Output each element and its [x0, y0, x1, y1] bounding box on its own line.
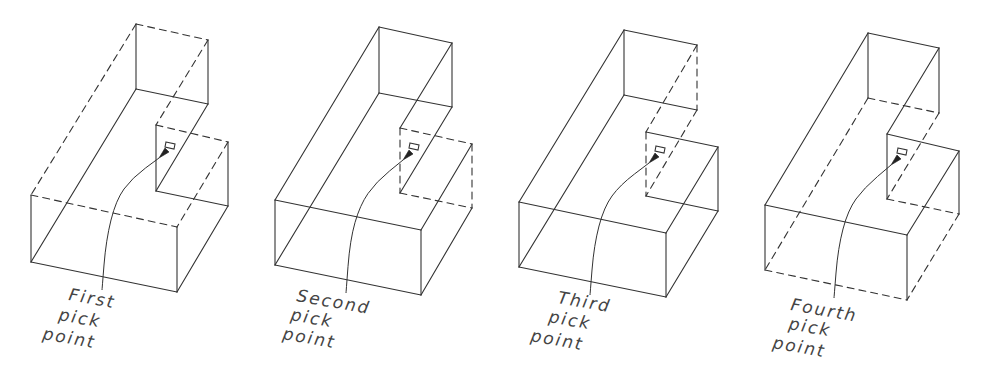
edge-rvb-nbl	[887, 113, 939, 199]
leader-line	[590, 163, 649, 295]
edge-ntr-ftr	[907, 151, 959, 235]
edge-ntl-ntr	[400, 128, 472, 144]
edge-btl-ftl	[519, 30, 624, 202]
pickbox-icon	[655, 146, 665, 153]
edge-ntr-ftr	[421, 144, 472, 230]
edge-ibb-fbl	[31, 89, 136, 262]
edge-nbl-nbr	[646, 196, 718, 211]
panel-fourth: Fourth pick point	[765, 33, 959, 361]
edge-ntl-ntr	[156, 125, 228, 142]
edge-tr-ntl	[156, 40, 208, 125]
leader-line	[834, 165, 891, 298]
edge-ftl-ftr	[765, 205, 907, 235]
pickbox-icon	[165, 142, 175, 149]
pick-point-diagram: First pick point Second pick point Third…	[0, 0, 985, 376]
edge-btl-tr	[136, 24, 208, 40]
edge-btl-ftl	[31, 24, 136, 195]
pickbox-icon	[409, 143, 419, 150]
edge-nbl-nbr	[156, 191, 228, 206]
panel-second: Second pick point	[275, 27, 472, 352]
edge-tr-ntl	[887, 48, 939, 134]
edge-nbr-fbr	[421, 208, 472, 295]
edge-ibb-rvb	[868, 98, 939, 113]
leader-line	[102, 158, 159, 290]
block-edges	[31, 24, 228, 292]
edge-rvb-nbl	[156, 104, 208, 191]
edge-tr-ntl	[400, 43, 452, 128]
edge-btl-tr	[868, 33, 939, 48]
panel-third: Third pick point	[519, 30, 718, 354]
edge-rvb-nbl	[400, 107, 452, 193]
edge-nbl-nbr	[887, 199, 959, 214]
pickbox-icon	[897, 148, 907, 155]
edge-ibb-fbl	[765, 98, 868, 270]
arrowhead-icon	[403, 150, 413, 160]
edge-ntr-ftr	[666, 147, 718, 233]
edge-nbr-fbr	[666, 211, 718, 297]
block-edges	[519, 30, 718, 297]
arrowhead-icon	[649, 153, 659, 163]
block-edges	[275, 27, 472, 295]
edge-ftl-ftr	[31, 195, 177, 227]
edge-ntr-ftr	[177, 142, 228, 227]
edge-ibb-rvb	[379, 93, 452, 107]
block-edges	[765, 33, 959, 300]
arrowhead-icon	[159, 148, 169, 158]
edge-ftl-ftr	[275, 200, 421, 230]
edge-btl-ftl	[765, 33, 868, 205]
edge-btl-tr	[379, 27, 452, 43]
edge-ibb-fbl	[275, 93, 379, 265]
edge-tr-ntl	[646, 45, 697, 132]
edge-rvb-nbl	[646, 110, 697, 196]
edge-ftl-ftr	[519, 202, 666, 233]
edge-nbr-fbr	[907, 214, 959, 300]
edge-ibb-fbl	[519, 95, 624, 267]
leader-line	[346, 160, 403, 293]
panel-first: First pick point	[31, 24, 228, 352]
edge-btl-ftl	[275, 27, 379, 200]
edge-btl-tr	[624, 30, 697, 45]
edge-nbr-fbr	[177, 206, 228, 292]
arrowhead-icon	[891, 155, 901, 165]
edge-ibb-rvb	[136, 89, 208, 104]
